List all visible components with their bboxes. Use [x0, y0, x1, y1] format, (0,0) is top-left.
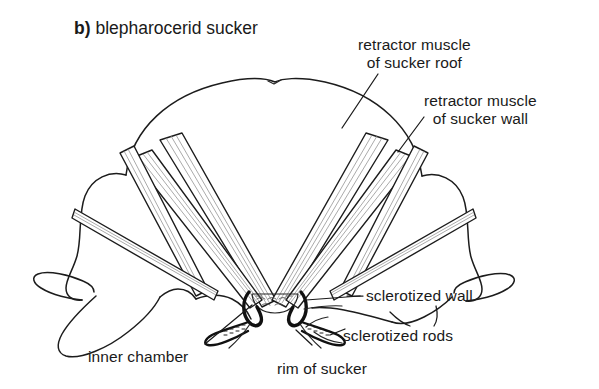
panel-title-text: blepharocerid sucker	[95, 18, 257, 38]
label-retractor-muscle-of-sucker-roof: retractor muscle of sucker roof	[358, 36, 471, 72]
blepharocerid-sucker-figure: b) blepharocerid sucker retractor muscle…	[0, 0, 599, 389]
anatomical-line-drawing	[0, 0, 599, 389]
sucker-roof-dome	[126, 79, 422, 176]
muscle-bundles-group	[72, 133, 476, 308]
page-title: b) blepharocerid sucker	[74, 18, 258, 39]
leader-sclerotized-rods-arc2	[434, 306, 437, 326]
label-rim-of-sucker: rim of sucker	[277, 360, 367, 378]
label-roof-line1: retractor muscle	[358, 36, 471, 54]
label-wall-line2: of sucker wall	[424, 110, 537, 128]
panel-tag: b)	[74, 18, 91, 38]
label-inner-chamber: inner chamber	[88, 348, 188, 366]
label-roof-line2: of sucker roof	[358, 54, 471, 72]
leader-retractor-wall	[398, 117, 424, 152]
label-sclerotized-wall: sclerotized wall	[366, 287, 473, 305]
label-retractor-muscle-of-sucker-wall: retractor muscle of sucker wall	[424, 92, 537, 128]
left-roof-retractor-muscle	[160, 133, 276, 307]
label-sclerotized-rods: sclerotized rods	[343, 327, 453, 345]
left-upper-process	[34, 273, 94, 300]
label-wall-line1: retractor muscle	[424, 92, 537, 110]
right-roof-retractor-muscle	[272, 133, 388, 307]
left-lower-lobe-inner	[160, 289, 196, 299]
right-inner-wall	[312, 308, 392, 322]
